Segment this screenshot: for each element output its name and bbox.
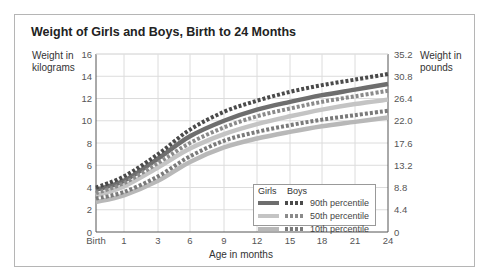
svg-text:30.8: 30.8 xyxy=(394,71,413,82)
svg-text:Birth: Birth xyxy=(86,235,106,246)
legend-girls-header: Girls xyxy=(258,186,277,196)
series-line xyxy=(96,84,388,190)
data-series xyxy=(96,74,388,202)
svg-text:2: 2 xyxy=(87,204,92,215)
svg-text:18: 18 xyxy=(317,235,328,246)
legend-item-50th: 50th percentile xyxy=(258,211,369,221)
svg-text:13.2: 13.2 xyxy=(394,160,413,171)
legend-girls-swatch-icon xyxy=(258,201,279,205)
legend-label: 50th percentile xyxy=(310,211,369,221)
svg-text:15: 15 xyxy=(285,235,296,246)
svg-text:6: 6 xyxy=(87,160,92,171)
svg-text:8.8: 8.8 xyxy=(394,182,407,193)
svg-text:8: 8 xyxy=(87,138,92,149)
legend-girls-swatch-icon xyxy=(258,214,279,218)
svg-text:26.4: 26.4 xyxy=(394,93,413,104)
svg-text:12: 12 xyxy=(81,93,92,104)
legend-girls-swatch-icon xyxy=(258,227,279,231)
svg-text:17.6: 17.6 xyxy=(394,138,413,149)
legend-label: 10th percentile xyxy=(310,224,369,234)
svg-text:21: 21 xyxy=(350,235,361,246)
legend-label: 90th percentile xyxy=(310,198,369,208)
legend-header: Girls Boys xyxy=(258,186,315,196)
svg-text:4: 4 xyxy=(87,182,92,193)
svg-text:0: 0 xyxy=(394,227,399,238)
svg-text:1: 1 xyxy=(121,235,126,246)
svg-text:12: 12 xyxy=(252,235,263,246)
svg-text:16: 16 xyxy=(81,49,92,60)
legend-item-90th: 90th percentile xyxy=(258,198,369,208)
svg-text:35.2: 35.2 xyxy=(394,49,413,60)
svg-text:4.4: 4.4 xyxy=(394,204,407,215)
svg-text:3: 3 xyxy=(155,235,160,246)
svg-text:22.0: 22.0 xyxy=(394,115,413,126)
legend-boys-swatch-icon xyxy=(285,214,305,218)
plot-area: 0024.448.8613.2817.61022.01226.41430.816… xyxy=(0,0,487,279)
legend-boys-swatch-icon xyxy=(285,201,305,205)
legend-boys-header: Boys xyxy=(287,186,307,196)
svg-text:9: 9 xyxy=(221,235,226,246)
svg-text:10: 10 xyxy=(81,115,92,126)
legend-boys-swatch-icon xyxy=(285,227,305,231)
svg-text:6: 6 xyxy=(187,235,192,246)
legend-item-10th: 10th percentile xyxy=(258,224,369,234)
svg-text:24: 24 xyxy=(383,235,394,246)
svg-text:14: 14 xyxy=(81,71,92,82)
